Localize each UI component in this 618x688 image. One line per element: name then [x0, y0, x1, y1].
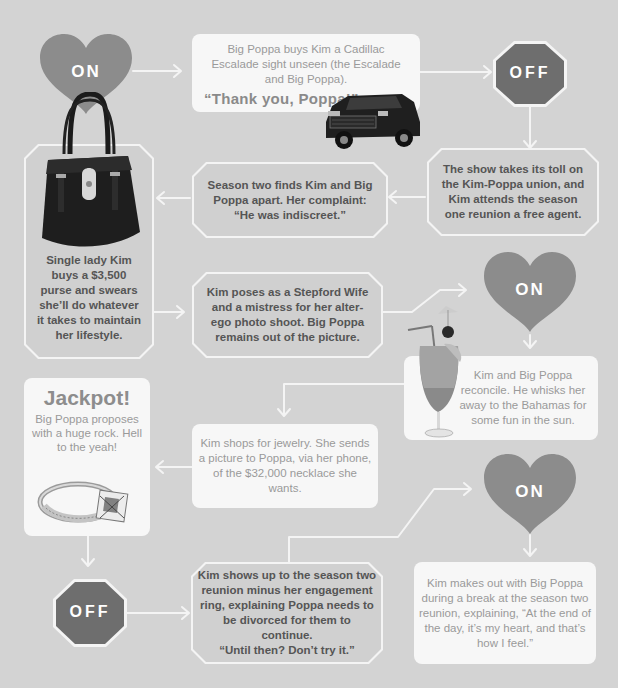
- stop-label: OFF: [52, 603, 128, 621]
- event-toll: The show takes its toll on the Kim-Poppa…: [427, 148, 599, 236]
- event-jewelry: Kim shops for jewelry. She sends a pictu…: [192, 424, 378, 508]
- cadillac-escalade-image: [322, 82, 422, 152]
- event-text: Kim and Big Poppa reconcile. He whisks h…: [458, 368, 588, 428]
- event-text: The show takes its toll on the Kim-Poppa…: [429, 150, 597, 234]
- event-apart: Season two finds Kim and Big Poppa apart…: [192, 162, 388, 238]
- heart-label: ON: [38, 62, 134, 82]
- off-stop-2: OFF: [52, 578, 128, 648]
- handbag-image: [34, 92, 144, 262]
- engagement-ring-image: [34, 466, 144, 532]
- flowchart: ON Big Poppa buys Kim a Cadillac Escalad…: [0, 0, 618, 688]
- heart-label: ON: [482, 280, 578, 300]
- event-quote: “Until then? Don’t try it.”: [219, 643, 354, 658]
- on-heart-3: ON: [482, 454, 578, 536]
- tropical-cocktail-image: [404, 302, 474, 440]
- event-text: Kim makes out with Big Poppa during a br…: [417, 576, 593, 651]
- event-text: Big Poppa buys Kim a Cadillac Escalade s…: [206, 42, 406, 87]
- heart-label: ON: [482, 482, 578, 502]
- event-stepford: Kim poses as a Stepford Wife and a mistr…: [192, 272, 383, 358]
- event-reunion: Kim shows up to the season two reunion m…: [191, 562, 383, 664]
- off-stop-1: OFF: [492, 40, 568, 108]
- event-text-wrap: Kim shows up to the season two reunion m…: [193, 564, 381, 662]
- event-text: Kim shops for jewelry. She sends a pictu…: [196, 436, 374, 496]
- event-text: Kim poses as a Stepford Wife and a mistr…: [194, 274, 381, 356]
- event-text: Season two finds Kim and Big Poppa apart…: [194, 164, 386, 236]
- stop-label: OFF: [492, 64, 568, 82]
- event-makeout: Kim makes out with Big Poppa during a br…: [414, 562, 596, 664]
- event-text: Kim shows up to the season two reunion m…: [197, 568, 377, 643]
- jackpot-heading: Jackpot!: [44, 386, 130, 410]
- on-heart-2: ON: [482, 252, 578, 334]
- event-text: Big Poppa proposes with a huge rock. Hel…: [28, 412, 146, 454]
